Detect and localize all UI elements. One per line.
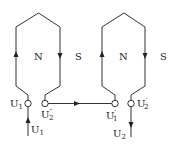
connection-right-arrow-icon: [74, 101, 80, 106]
coil-2-terminal-end: [128, 100, 134, 106]
coil-2-start-label: U′1: [106, 109, 118, 123]
coil-2: N S U′1 U′2: [100, 13, 168, 123]
coil-1-pole-n: N: [34, 51, 43, 62]
coil-1-terminal-end: [42, 100, 48, 106]
input-up-arrow-icon: [26, 117, 31, 123]
coil-2-pole-s: S: [160, 51, 167, 62]
output-lead-label: U2: [113, 128, 126, 141]
coil-1-down-arrow-icon: [58, 53, 63, 59]
input-lead-label: U1: [31, 124, 44, 137]
coil-2-up-arrow-icon: [100, 51, 105, 57]
winding-diagram: N S U1 U″2 N S U′1 U′2 U1 U2: [0, 0, 178, 148]
coil-2-terminal-start: [112, 100, 118, 106]
coil-1-terminal-start: [25, 100, 31, 106]
coil-1: N S U1 U″2: [10, 13, 82, 122]
coil-1-pole-s: S: [75, 51, 82, 62]
coil-2-down-arrow-icon: [143, 53, 148, 59]
output-down-arrow-icon: [129, 122, 134, 128]
coil-2-pole-n: N: [119, 51, 128, 62]
coil-2-end-label: U′2: [137, 97, 149, 111]
coil-1-up-arrow-icon: [14, 51, 19, 57]
coil-1-start-label: U1: [10, 98, 23, 111]
coil-1-end-label: U″2: [41, 108, 54, 122]
